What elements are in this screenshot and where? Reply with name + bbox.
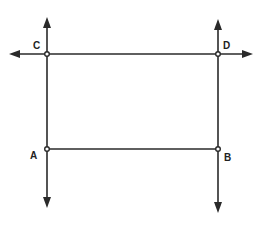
point-c-dot	[45, 52, 50, 57]
point-label-d: D	[223, 41, 230, 51]
arrowhead-down-icon	[43, 197, 51, 208]
arrowhead-up-icon	[43, 17, 51, 28]
arrowhead-up-icon	[214, 19, 222, 30]
line-db	[214, 19, 222, 213]
point-label-a: A	[30, 151, 37, 161]
arrowhead-down-icon	[214, 202, 222, 213]
point-a-dot	[45, 147, 50, 152]
arrowhead-left-icon	[9, 50, 20, 58]
point-label-b: B	[224, 153, 231, 163]
geometry-diagram	[0, 0, 265, 225]
point-d-dot	[216, 52, 221, 57]
point-b-dot	[216, 147, 221, 152]
point-label-c: C	[33, 41, 40, 51]
line-ca	[43, 17, 51, 208]
arrowhead-right-icon	[242, 50, 253, 58]
